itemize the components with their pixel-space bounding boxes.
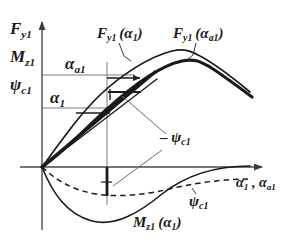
label-curve-fy1-alpha1: Fy1 (α1): [97, 26, 143, 41]
y-axis-label-psic1-sub: c1: [21, 84, 32, 96]
label-curve-fy1-alphaa1-base: F: [173, 25, 183, 41]
x-axis-label-second-sub: a1: [267, 182, 276, 192]
label-curve-fy1-alphaa1-arg: α: [200, 25, 208, 41]
label-curve-mz1-alpha1: Mz1 (α1): [133, 215, 181, 230]
leader-psi-c1-lower: [113, 150, 162, 186]
diagram-svg: [0, 0, 306, 250]
y-axis-label-fy1-base: F: [10, 19, 21, 38]
label-curve-fy1-alpha1-sub: y1: [107, 32, 116, 43]
label-neg-psi-c1-upper-sub: c1: [181, 136, 190, 147]
label-curve-fy1-alpha1-arg: α: [124, 25, 132, 41]
label-psi-c1-dashed-sub: c1: [199, 200, 208, 211]
x-axis-label-first-sub: 1: [244, 182, 249, 192]
label-curve-mz1-alpha1-close: ): [176, 214, 181, 230]
y-axis-label-mz1-base: M: [10, 47, 25, 66]
label-neg-psi-c1-upper-prefix: –: [160, 129, 171, 145]
x-axis-label-first-base: α: [236, 175, 244, 190]
operating-rays: [42, 72, 157, 167]
label-angle-alpha-a1-sub: a1: [74, 63, 85, 75]
x-axis-label-second-base: α: [259, 175, 267, 190]
curve-psi-c1-dashed: [42, 167, 252, 196]
y-axis-label-fy1: Fy1: [10, 20, 32, 37]
figure-canvas: Fy1 Mz1 ψc1 Fy1 (α1) Fy1 (αa1) αa1 α1 – …: [0, 0, 306, 250]
label-angle-alpha-1-sub: 1: [59, 97, 65, 109]
label-angle-alpha-1: α1: [50, 89, 65, 106]
y-axis-label-psic1-base: ψ: [10, 75, 21, 94]
y-axis-label-mz1: Mz1: [10, 48, 35, 65]
ray-thick-alpha-a1: [42, 72, 155, 167]
label-curve-fy1-alpha1-close: ): [138, 25, 143, 41]
axes-group: [20, 22, 262, 230]
x-axis-label-separator: ,: [248, 175, 259, 190]
label-curve-fy1-alphaa1-close: ): [219, 25, 224, 41]
x-axis-label: α1 , αa1: [236, 176, 276, 190]
label-angle-alpha-a1: αa1: [65, 55, 86, 72]
label-curve-fy1-alphaa1-arg-sub: a1: [209, 32, 219, 43]
y-axis-label-fy1-sub: y1: [21, 28, 32, 40]
label-curve-mz1-alpha1-base: M: [133, 214, 146, 230]
psi-c1-lower-bracket: [101, 167, 112, 196]
label-psi-c1-dashed: ψc1: [189, 194, 208, 209]
label-psi-c1-dashed-base: ψ: [189, 193, 199, 209]
label-neg-psi-c1-upper: – ψc1: [160, 130, 191, 145]
label-curve-mz1-alpha1-open: (: [155, 214, 163, 230]
label-curve-fy1-alpha1-arg-sub: 1: [133, 32, 138, 43]
y-axis-label-psic1: ψc1: [10, 76, 32, 93]
gridlines: [42, 62, 135, 205]
label-angle-alpha-1-base: α: [50, 88, 59, 107]
curve-fy1-alphaa1: [42, 60, 252, 167]
label-curve-mz1-alpha1-sub: z1: [146, 221, 155, 232]
label-neg-psi-c1-upper-base: ψ: [171, 129, 181, 145]
label-curve-mz1-alpha1-arg-sub: 1: [171, 221, 176, 232]
label-curve-fy1-alphaa1: Fy1 (αa1): [173, 26, 224, 41]
label-angle-alpha-a1-base: α: [65, 54, 74, 73]
leader-fy1-alpha1: [119, 43, 131, 61]
y-axis-label-mz1-sub: z1: [25, 56, 35, 68]
label-curve-fy1-alphaa1-sub: y1: [183, 32, 192, 43]
label-curve-fy1-alpha1-base: F: [97, 25, 107, 41]
